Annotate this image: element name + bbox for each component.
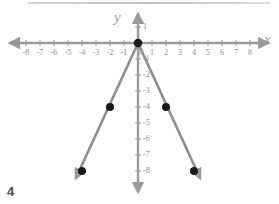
x-tick-label-2: 2: [164, 49, 168, 57]
x-tick-label--5: -5: [65, 49, 72, 57]
x-tick-label-3: 3: [178, 49, 182, 57]
x-tick-label--3: -3: [93, 49, 100, 57]
y-tick-label--1: -1: [143, 55, 150, 63]
y-axis-label: y: [114, 10, 121, 25]
data-point: [78, 167, 86, 175]
x-tick-label-7: 7: [234, 49, 238, 57]
data-point: [190, 167, 198, 175]
y-tick-label--2: -2: [143, 71, 150, 79]
x-tick-label-6: 6: [220, 49, 224, 57]
x-tick-label-5: 5: [206, 49, 210, 57]
y-tick-label--5: -5: [143, 119, 150, 127]
y-tick-label--7: -7: [143, 151, 150, 159]
x-tick-label--4: -4: [79, 49, 86, 57]
data-point: [162, 103, 170, 111]
x-axis-label: x: [264, 32, 271, 47]
x-tick-label--1: -1: [121, 49, 128, 57]
x-tick-label--2: -2: [107, 49, 114, 57]
y-tick-label--4: -4: [143, 103, 150, 111]
x-tick-label-1: 1: [150, 49, 154, 57]
graph-figure: -8 -7 -6 -5 -4 -3 -2 -1 0 1 2 3 4 5 6 7 …: [0, 0, 279, 204]
x-tick-label-8: 8: [248, 49, 252, 57]
y-tick-label-1: 1: [143, 23, 147, 31]
data-point: [134, 39, 143, 48]
y-tick-label--3: -3: [143, 87, 150, 95]
x-tick-label--6: -6: [51, 49, 58, 57]
x-tick-label-4: 4: [192, 49, 196, 57]
question-number: 4: [7, 185, 14, 198]
coordinate-plane: [0, 0, 279, 204]
y-tick-label--6: -6: [143, 135, 150, 143]
y-tick-label--8: -8: [143, 167, 150, 175]
x-tick-label--7: -7: [37, 49, 44, 57]
x-tick-label--8: -8: [23, 49, 30, 57]
data-point: [106, 103, 114, 111]
